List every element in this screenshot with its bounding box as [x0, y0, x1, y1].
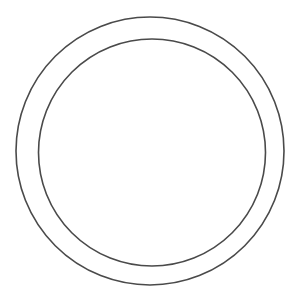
outer-circle — [16, 17, 284, 285]
inner-circle — [39, 39, 266, 266]
concentric-circles-figure — [0, 0, 296, 299]
diagram-canvas — [0, 0, 296, 299]
